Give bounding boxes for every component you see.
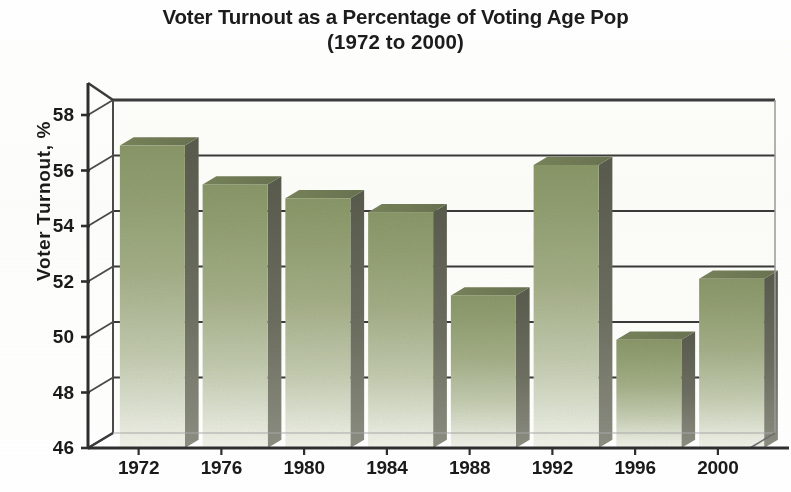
bar-side-face: [516, 287, 530, 448]
bar-side-face: [599, 157, 613, 448]
bar-front-face: [120, 146, 185, 448]
chart-figure: Voter Turnout as a Percentage of Voting …: [0, 0, 791, 492]
x-tick-label: 1988: [425, 458, 515, 478]
bar: [120, 137, 199, 448]
bar-front-face: [368, 212, 433, 448]
plot-area: [0, 0, 791, 492]
bar-top-face: [120, 137, 199, 145]
bar-top-face: [699, 270, 778, 278]
x-tick-label: 1984: [342, 458, 432, 478]
bar: [534, 157, 613, 448]
y-tick-label: 58: [28, 105, 74, 124]
bar: [699, 270, 778, 448]
bar-front-face: [285, 198, 350, 448]
bar-front-face: [534, 165, 599, 448]
x-tick-label: 2000: [673, 458, 763, 478]
bar: [285, 190, 364, 448]
bar-front-face: [451, 295, 516, 448]
bar-side-face: [268, 176, 282, 448]
bar-top-face: [451, 287, 530, 295]
bar-top-face: [203, 176, 282, 184]
x-tick-label: 1976: [176, 458, 266, 478]
y-tick-label: 50: [28, 327, 74, 346]
bar-side-face: [433, 204, 447, 448]
bar: [368, 204, 447, 448]
bar-side-face: [350, 190, 364, 448]
x-tick-label: 1980: [259, 458, 349, 478]
gridline-depth-connector: [88, 378, 113, 393]
bar-top-face: [285, 190, 364, 198]
y-tick-label: 54: [28, 216, 74, 235]
bar-front-face: [616, 340, 681, 448]
bar-top-face: [368, 204, 447, 212]
y-tick-label: 56: [28, 161, 74, 180]
gridline-depth-connector: [88, 322, 113, 337]
gridline-depth-connector: [88, 156, 113, 171]
bar-top-face: [534, 157, 613, 165]
y-tick-label: 48: [28, 383, 74, 402]
gridline-depth-connector: [88, 267, 113, 282]
gridline-depth-connector: [88, 211, 113, 226]
x-tick-label: 1996: [590, 458, 680, 478]
bar-top-face: [616, 332, 695, 340]
bar-front-face: [203, 184, 268, 448]
y-tick-label: 52: [28, 272, 74, 291]
x-tick-label: 1972: [94, 458, 184, 478]
bar: [451, 287, 530, 448]
x-tick-label: 1992: [507, 458, 597, 478]
bar-front-face: [699, 279, 764, 448]
bar: [203, 176, 282, 448]
bar-side-face: [764, 270, 778, 448]
bar: [616, 332, 695, 448]
bar-side-face: [681, 332, 695, 448]
gridline-depth-connector: [88, 100, 113, 115]
y-tick-label: 46: [28, 438, 74, 457]
bar-side-face: [185, 137, 199, 448]
